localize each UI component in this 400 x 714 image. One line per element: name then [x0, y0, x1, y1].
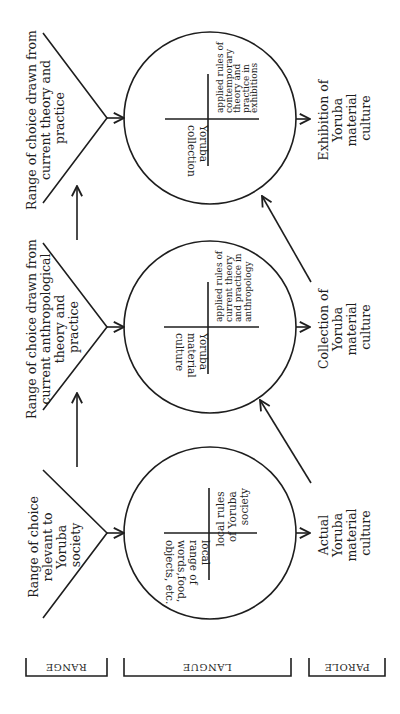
band-label-parole: PAROLE — [324, 662, 370, 673]
range-text-3: Range of choice drawn from current theor… — [24, 26, 67, 210]
circle-right-text-1: local rules of Yoruba society — [214, 488, 250, 547]
band-label-range: RANGE — [45, 662, 86, 673]
output-to-next-circle-arrow-1 — [260, 400, 311, 483]
band-brackets: RANGE LANGUE PAROLE — [26, 658, 385, 676]
stage-1: Range of choice relevant to Yoruba socie… — [26, 447, 373, 619]
circle-right-text-3: applied rules of contemporary theory and… — [215, 39, 259, 113]
range-text-1: Range of choice relevant to Yoruba socie… — [26, 492, 83, 598]
stage-2: Range of choice drawn from current anthr… — [24, 235, 373, 419]
output-to-next-circle-arrow-2 — [262, 196, 311, 282]
circle-left-text-1: local range of words,food, objects, etc. — [164, 540, 212, 606]
range-text-2: Range of choice drawn from current anthr… — [24, 235, 81, 419]
output-text-3: Exhibition of Yoruba material culture — [316, 76, 373, 161]
stage-3: Range of choice drawn from current theor… — [24, 26, 373, 210]
diagram-canvas: Range of choice relevant to Yoruba socie… — [0, 0, 400, 714]
langue-circle-3 — [124, 32, 296, 204]
circle-right-text-2: applied rules of current theory and prac… — [214, 248, 253, 322]
circle-left-text-3: Yoruba collection — [186, 124, 210, 177]
output-text-1: Actual Yoruba material culture — [316, 504, 373, 561]
output-text-2: Collection of Yoruba material culture — [316, 285, 373, 369]
circle-left-text-2: Yoruba material culture — [174, 332, 210, 381]
band-label-langue: LANGUE — [182, 662, 231, 673]
